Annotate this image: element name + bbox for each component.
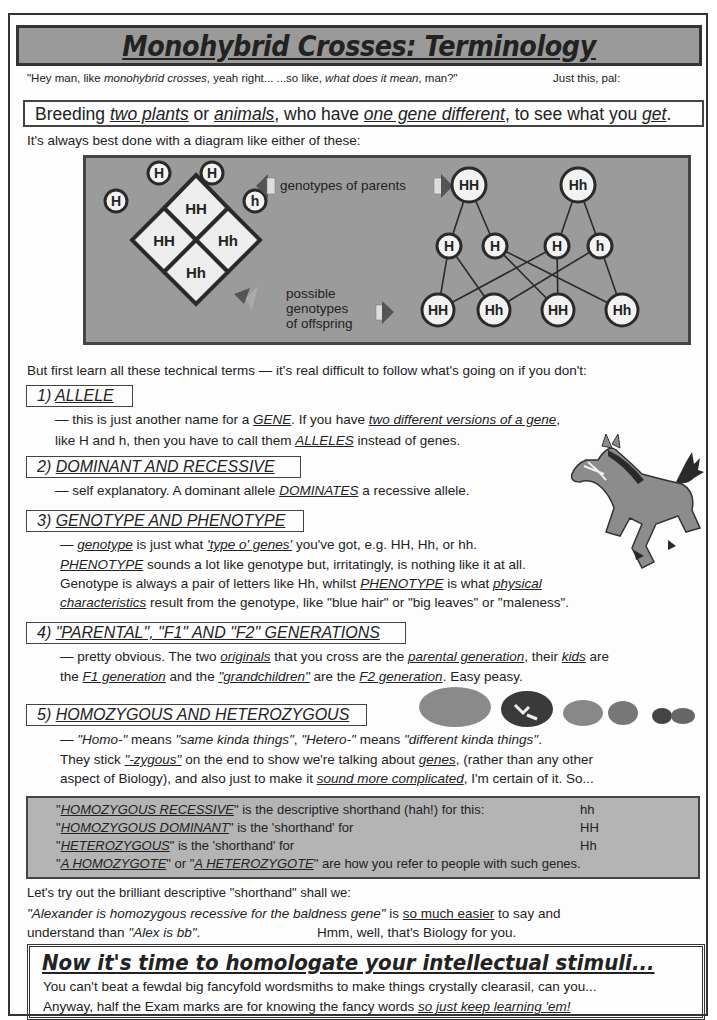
section-title: HOMOZYGOUS AND HETEROZYGOUS	[56, 706, 350, 723]
text: sounds a lot like genotype but, irritati…	[143, 557, 525, 572]
term: two different versions of a gene	[369, 412, 557, 427]
term: "different kinda things"	[404, 732, 538, 747]
allele-side: h	[244, 190, 266, 212]
page-title: Monohybrid Crosses: Terminology	[122, 29, 596, 63]
shorthand-text: " is the descriptive shorthand (hah!) fo…	[234, 802, 484, 817]
gamete-allele: H	[483, 234, 507, 258]
term: GENE	[253, 412, 291, 427]
text: aspect of Biology), and also just to mak…	[60, 771, 317, 786]
text: you've got, e.g. HH, Hh, or hh.	[292, 537, 477, 552]
offspring-genotype-label: HH	[548, 302, 568, 318]
def-text: , who have	[274, 104, 364, 124]
term: 'type o' genes'	[207, 537, 292, 552]
text: —	[60, 537, 77, 552]
allele-side-label: h	[251, 193, 260, 209]
emphasis: so just keep learning 'em!	[418, 999, 571, 1014]
title-banner: Monohybrid Crosses: Terminology	[16, 25, 702, 66]
intro-text: "Hey man, like	[27, 72, 104, 84]
section-3-line-4: characteristics result from the genotype…	[60, 595, 569, 610]
section-3-line-2: PHENOTYPE sounds a lot like genotype but…	[60, 557, 526, 572]
intro-em: monohybrid crosses	[104, 72, 207, 84]
summary-box: Now it's time to homologate your intelle…	[27, 944, 705, 1020]
section-number: 5)	[37, 706, 56, 723]
label-offspring-2: genotypes	[286, 301, 349, 316]
section-number: 1)	[37, 387, 55, 404]
text: understand than	[27, 925, 128, 940]
text: is	[386, 906, 403, 921]
intro-text: , man?"	[418, 72, 457, 84]
shorthand-term: HOMOZYGOUS RECESSIVE	[61, 802, 234, 817]
allele-side-label: H	[111, 193, 121, 209]
shorthand-value: hh	[580, 802, 594, 817]
section-4-line-1: — pretty obvious. The two originals that…	[60, 649, 609, 664]
text: are the	[310, 669, 360, 684]
section-number: 4)	[37, 624, 56, 641]
label-offspring-3: of offspring	[286, 316, 353, 331]
guinea-pig	[608, 701, 638, 725]
term: "grandchildren"	[218, 669, 309, 684]
section-5-line-1: — "Homo-" means "same kinda things", "He…	[60, 732, 542, 747]
summary-line-1: You can't beat a fewdal big fancyfold wo…	[43, 979, 597, 994]
example-aside: Hmm, well, that's Biology for you.	[317, 925, 516, 940]
text: that you cross are the	[271, 649, 408, 664]
shorthand-term: HETEROZYGOUS	[61, 838, 170, 853]
gamete-allele: h	[588, 234, 612, 258]
shorthand-row: "HOMOZYGOUS DOMINANT" is the 'shorthand'…	[56, 820, 353, 835]
allele-top: H	[201, 162, 223, 184]
section-1-line-2: like H and h, then you have to call them…	[55, 433, 460, 448]
guinea-pigs-illustration	[415, 685, 705, 730]
intro-quote: "Hey man, like monohybrid crosses, yeah …	[27, 72, 458, 84]
shorthand-term: HOMOZYGOUS DOMINANT	[61, 820, 229, 835]
section-3-line-3: Genotype is always a pair of letters lik…	[60, 576, 542, 591]
genetic-cross-tree: HHHhHHHhHHHhHHHh	[422, 168, 638, 326]
shorthand-row: "HETEROZYGOUS" is the 'shorthand' for	[56, 838, 294, 853]
allele-top-label: H	[154, 165, 164, 181]
term: DOMINATES	[279, 483, 358, 498]
text: like H and h, then you have to call them	[55, 433, 295, 448]
guinea-pig	[563, 700, 603, 726]
shorthand-text: " or "	[166, 856, 194, 871]
text: — this is just another name for a	[55, 412, 253, 427]
text: —	[60, 732, 77, 747]
text: . If you have	[291, 412, 368, 427]
punnett-square: HH HH Hh Hh	[103, 168, 260, 304]
definition-box: Breeding two plants or animals, who have…	[23, 100, 704, 127]
def-emphasis: animals	[214, 104, 274, 124]
allele-top-label: H	[207, 165, 217, 181]
text: .	[538, 732, 542, 747]
text: result from the genotype, like "blue hai…	[146, 595, 569, 610]
def-emphasis: get	[642, 104, 666, 124]
text: is just what	[133, 537, 207, 552]
example-quote: "Alexander is homozygous recessive for t…	[27, 906, 386, 921]
text: Anyway, half the Exam marks are for know…	[43, 999, 418, 1014]
text: .	[196, 925, 200, 940]
genetics-diagram: HH HH Hh Hh HHHh genotypes of parents po…	[83, 155, 691, 345]
term: "Homo-"	[77, 732, 127, 747]
arrow-right-parents-icon	[434, 174, 453, 198]
section-heading-generations: 4) "PARENTAL", "F1" AND "F2" GENERATIONS	[26, 622, 406, 644]
parent-genotype: Hh	[561, 168, 595, 202]
allele-top: H	[148, 162, 170, 184]
diagram-svg: HH HH Hh Hh HHHh genotypes of parents po…	[86, 158, 688, 342]
section-heading-genotype-phenotype: 3) GENOTYPE AND PHENOTYPE	[26, 510, 304, 532]
intro-em: what does it mean	[325, 72, 418, 84]
text: — pretty obvious. The two	[60, 649, 220, 664]
term: PHENOTYPE	[360, 576, 443, 591]
shorthand-text: " is the 'shorthand' for	[229, 820, 353, 835]
section-heading-homo-hetero: 5) HOMOZYGOUS AND HETEROZYGOUS	[26, 704, 367, 726]
example-quote: "Alex is bb"	[128, 925, 196, 940]
section-5-line-2: They stick "-zygous" on the end to show …	[60, 752, 593, 767]
text: and the	[166, 669, 219, 684]
horse-illustration	[558, 432, 708, 572]
def-emphasis: two plants	[110, 104, 189, 124]
section-title: DOMINANT AND RECESSIVE	[56, 458, 275, 475]
shorthand-value: HH	[580, 820, 599, 835]
def-text: , to see what you	[505, 104, 642, 124]
term: genotype	[77, 537, 133, 552]
shorthand-term: A HETEROZYGOTE	[194, 856, 313, 871]
text: are	[586, 649, 609, 664]
def-text: or	[189, 104, 214, 124]
term: "same kinda things"	[175, 732, 293, 747]
text: the	[60, 669, 83, 684]
gamete-allele: H	[437, 234, 461, 258]
